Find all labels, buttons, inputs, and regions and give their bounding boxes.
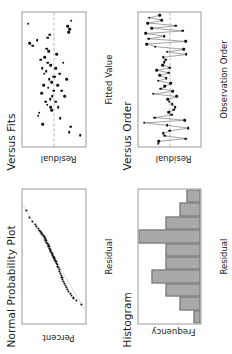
versus-order-xlabel: Observation Order bbox=[218, 11, 228, 147]
x-tick-mark bbox=[85, 23, 86, 24]
data-point bbox=[146, 21, 149, 24]
data-point bbox=[42, 83, 45, 86]
data-point bbox=[69, 125, 72, 128]
normal-probability-plot-xlabel: Residual bbox=[103, 188, 113, 324]
x-tick-mark bbox=[85, 323, 86, 324]
x-tick-mark bbox=[85, 289, 86, 290]
x-tick-mark bbox=[200, 106, 201, 107]
y-tick-mark bbox=[24, 323, 25, 324]
data-point bbox=[65, 78, 68, 81]
data-point bbox=[170, 113, 173, 116]
histogram-xlabel: Residual bbox=[218, 188, 228, 324]
x-tick-mark bbox=[200, 229, 201, 230]
data-point bbox=[46, 61, 49, 64]
data-point bbox=[171, 90, 174, 93]
histogram-bar bbox=[179, 202, 200, 215]
y-tick-mark bbox=[198, 146, 199, 147]
versus-order-ylabel: Residual bbox=[155, 153, 191, 163]
x-tick-mark bbox=[200, 132, 201, 133]
y-tick-mark bbox=[53, 146, 54, 147]
x-tick-mark bbox=[85, 79, 86, 80]
data-point bbox=[158, 13, 161, 16]
x-tick-mark bbox=[85, 106, 86, 107]
data-point bbox=[145, 42, 148, 45]
y-tick-mark bbox=[183, 146, 184, 147]
data-point bbox=[25, 209, 27, 211]
zero-reference-line bbox=[53, 12, 54, 146]
data-point bbox=[31, 220, 33, 222]
data-point bbox=[54, 67, 57, 70]
normal-probability-plot-ylabel: Percent bbox=[42, 332, 74, 342]
x-tick-mark bbox=[85, 256, 86, 257]
data-point bbox=[155, 69, 158, 72]
y-tick-mark bbox=[37, 323, 38, 324]
data-point bbox=[168, 129, 171, 132]
data-point bbox=[33, 223, 35, 225]
x-tick-mark bbox=[200, 143, 201, 144]
x-tick-mark bbox=[200, 256, 201, 257]
data-point bbox=[48, 97, 51, 100]
data-point bbox=[166, 97, 169, 100]
y-tick-mark bbox=[154, 146, 155, 147]
data-point bbox=[58, 72, 61, 75]
y-tick-mark bbox=[200, 323, 201, 324]
y-tick-mark bbox=[139, 146, 140, 147]
histogram-bar bbox=[179, 296, 200, 309]
data-point bbox=[169, 82, 172, 85]
panel-versus-fits: Versus Fits Residual 89909192930.80.40.0… bbox=[0, 0, 116, 177]
data-point bbox=[75, 299, 77, 301]
data-point bbox=[162, 34, 165, 37]
data-point bbox=[55, 53, 58, 56]
data-point bbox=[162, 132, 165, 135]
versus-order-plot-area: 151015202530354045500.80.40.0-0.4-0.8 bbox=[137, 11, 202, 147]
y-tick-mark bbox=[82, 323, 83, 324]
data-point bbox=[184, 40, 187, 43]
y-tick-mark bbox=[186, 323, 187, 324]
normal-probability-plot-area: -1.0-0.50.00.51.0999050101 bbox=[21, 188, 86, 324]
data-point bbox=[37, 114, 40, 117]
data-point bbox=[52, 89, 55, 92]
data-point bbox=[168, 66, 171, 69]
histogram-plot-area: -0.6-0.30.00.30.602468 bbox=[137, 188, 202, 324]
data-point bbox=[62, 61, 65, 64]
data-point bbox=[159, 87, 162, 90]
data-point bbox=[31, 44, 34, 47]
data-point bbox=[160, 19, 163, 22]
data-point bbox=[144, 32, 147, 35]
data-point bbox=[182, 48, 185, 51]
y-tick-mark bbox=[82, 146, 83, 147]
data-point bbox=[187, 126, 190, 129]
x-tick-mark bbox=[200, 27, 201, 28]
x-tick-mark bbox=[200, 93, 201, 94]
histogram-bar bbox=[165, 243, 200, 256]
residual-plots-canvas: Normal Probability Plot Percent -1.0-0.5… bbox=[0, 0, 231, 354]
data-point bbox=[147, 37, 150, 40]
data-point bbox=[157, 139, 160, 142]
data-point bbox=[68, 27, 71, 30]
panel-histogram: Histogram Frequency -0.6-0.30.00.30.6024… bbox=[116, 177, 232, 354]
x-tick-mark bbox=[200, 40, 201, 41]
data-point bbox=[153, 45, 156, 48]
data-point bbox=[183, 118, 186, 121]
data-point bbox=[48, 78, 51, 81]
data-point bbox=[49, 106, 52, 109]
panel-normal-probability-plot: Normal Probability Plot Percent -1.0-0.5… bbox=[0, 177, 116, 354]
data-point bbox=[53, 75, 56, 78]
x-tick-mark bbox=[85, 51, 86, 52]
data-point bbox=[162, 55, 165, 58]
data-point bbox=[60, 89, 63, 92]
data-point bbox=[184, 137, 187, 140]
data-point bbox=[167, 111, 170, 114]
data-point bbox=[45, 103, 48, 106]
histogram-bar bbox=[138, 229, 201, 242]
data-point bbox=[40, 92, 43, 95]
data-point bbox=[156, 79, 159, 82]
data-point bbox=[184, 53, 187, 56]
data-point bbox=[66, 25, 69, 28]
data-point bbox=[67, 131, 70, 134]
data-point bbox=[50, 81, 53, 84]
data-point bbox=[72, 296, 74, 298]
histogram-title: Histogram bbox=[120, 292, 132, 347]
data-point bbox=[37, 111, 40, 114]
data-point bbox=[79, 303, 81, 305]
